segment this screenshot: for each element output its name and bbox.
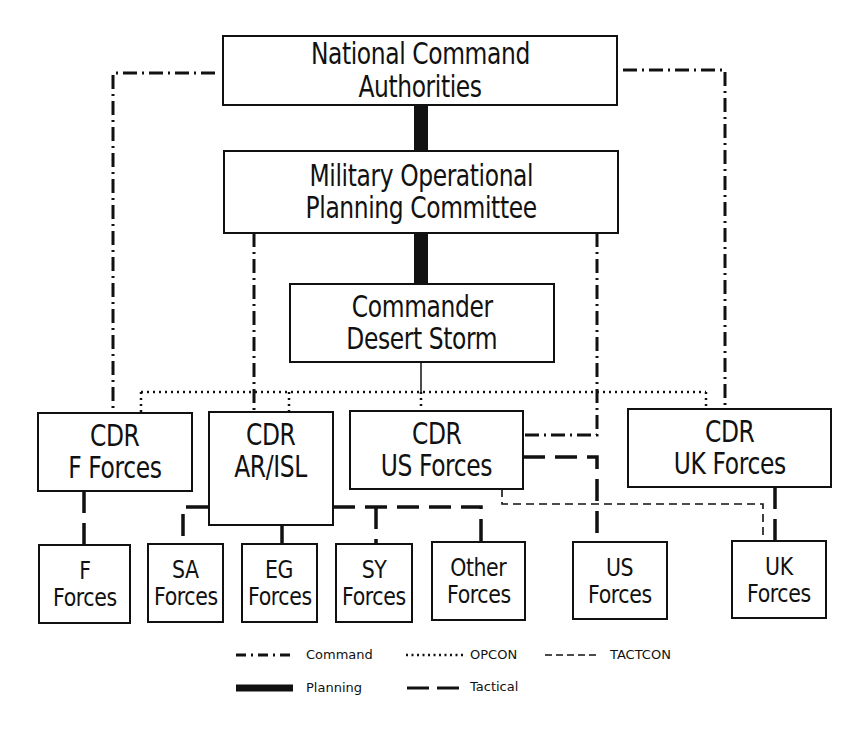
node-label: AR/ISL: [235, 451, 308, 483]
node-label: F: [79, 557, 90, 584]
node-label: Authorities: [358, 71, 481, 103]
connector-lines: [0, 0, 864, 736]
node-label: F Forces: [68, 452, 161, 484]
node-label: US Forces: [381, 450, 492, 482]
command-line-nca-cdr-f: [113, 73, 215, 412]
legend-tactical-label: Tactical: [470, 679, 518, 694]
node-label: EG: [265, 556, 293, 583]
node-label: Forces: [747, 580, 811, 607]
node-label: CDR: [412, 418, 461, 450]
node-label: US: [606, 554, 633, 581]
node-other-forces: Other Forces: [431, 541, 526, 621]
node-military-operational-planning-committee: Military Operational Planning Committee: [223, 150, 619, 234]
node-f-forces: F Forces: [38, 544, 131, 624]
legend-opcon-label: OPCON: [470, 647, 517, 662]
node-cdr-uk-forces: CDR UK Forces: [627, 408, 832, 488]
node-label: Forces: [248, 583, 312, 610]
node-label: CDR: [705, 416, 754, 448]
node-label: Other: [450, 554, 506, 581]
node-commander-desert-storm: Commander Desert Storm: [289, 283, 555, 363]
node-us-forces: US Forces: [572, 541, 668, 620]
node-label: Planning Committee: [305, 192, 536, 224]
node-label: Forces: [342, 583, 406, 610]
tactical-line-us: [523, 457, 597, 541]
node-label: Forces: [53, 584, 117, 611]
tactical-line-sa: [183, 507, 208, 543]
node-label: CDR: [246, 419, 295, 451]
node-sy-forces: SY Forces: [335, 543, 413, 623]
node-label: National Command: [311, 38, 530, 70]
node-label: UK: [765, 553, 793, 580]
legend-tactcon-label: TACTCON: [610, 647, 671, 662]
node-eg-forces: EG Forces: [241, 543, 318, 623]
node-label: Commander: [352, 291, 493, 323]
node-uk-forces: UK Forces: [731, 540, 827, 619]
node-label: Forces: [154, 583, 218, 610]
node-cdr-ar-isl: CDR AR/ISL: [208, 411, 334, 526]
node-label: Forces: [588, 581, 652, 608]
node-national-command-authorities: National Command Authorities: [222, 35, 618, 106]
node-cdr-us-forces: CDR US Forces: [349, 410, 524, 490]
node-label: CDR: [90, 420, 139, 452]
node-label: SY: [362, 556, 387, 583]
node-label: UK Forces: [674, 448, 786, 480]
legend-command-label: Command: [306, 647, 373, 662]
node-label: SA: [172, 556, 199, 583]
legend-planning-label: Planning: [306, 680, 362, 695]
node-sa-forces: SA Forces: [147, 543, 224, 623]
tactcon-line-us-uk: [502, 489, 763, 540]
command-line-nca-cdr-uk: [623, 70, 725, 408]
node-label: Forces: [447, 581, 511, 608]
node-label: Military Operational: [309, 160, 533, 192]
node-label: Desert Storm: [347, 323, 498, 355]
node-cdr-f-forces: CDR F Forces: [37, 412, 193, 492]
tactical-line-ar-right: [333, 507, 481, 541]
